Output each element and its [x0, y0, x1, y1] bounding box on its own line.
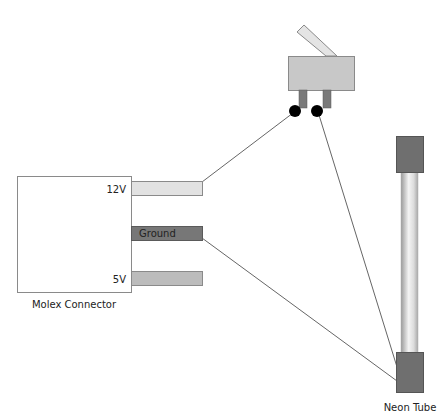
wiring-diagram: 12V Ground 5V Molex Connector Neon Tube: [0, 0, 448, 416]
pin-12v: [132, 182, 203, 196]
switch-lever: [297, 25, 337, 56]
neon-tube-top-cap: [397, 137, 424, 173]
pin-5v: [132, 272, 203, 286]
wire-switch-to-neon: [319, 115, 397, 367]
neon-tube-glass: [401, 172, 418, 353]
pin-12v-label: 12V: [106, 184, 126, 195]
switch-pin-right: [323, 90, 331, 108]
pin-5v-label: 5V: [113, 274, 126, 285]
switch-body: [289, 57, 355, 91]
neon-tube: Neon Tube: [384, 137, 437, 414]
molex-connector: 12V Ground 5V Molex Connector: [18, 177, 203, 311]
toggle-switch: [289, 25, 355, 117]
wire-ground-to-neon: [202, 238, 397, 381]
neon-tube-bottom-cap: [397, 353, 424, 393]
wires: [202, 113, 397, 381]
switch-terminal-right: [311, 105, 323, 117]
switch-pin-left: [299, 90, 307, 108]
neon-tube-title: Neon Tube: [384, 402, 437, 413]
connector-title: Molex Connector: [32, 299, 117, 310]
switch-terminal-left: [289, 105, 301, 117]
wire-12v-to-switch: [202, 113, 293, 182]
pin-ground-label: Ground: [139, 228, 176, 239]
